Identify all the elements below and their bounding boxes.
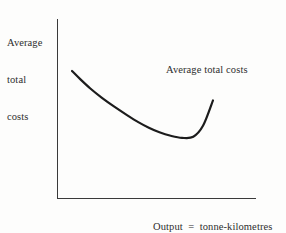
- x-axis-label: Output = tonne-kilometres transported: [148, 196, 282, 233]
- y-axis-label-line-1: Average: [7, 37, 42, 49]
- y-axis-label-line-2: total: [7, 74, 42, 86]
- x-axis-label-line-1: Output = tonne-kilometres: [148, 221, 282, 233]
- figure-container: Average total costs Average total costs …: [0, 0, 286, 233]
- average-total-cost-curve: [72, 71, 213, 138]
- y-axis-label: Average total costs: [7, 12, 42, 148]
- curve-annotation-label: Average total costs: [166, 64, 248, 76]
- y-axis-label-line-3: costs: [7, 111, 42, 123]
